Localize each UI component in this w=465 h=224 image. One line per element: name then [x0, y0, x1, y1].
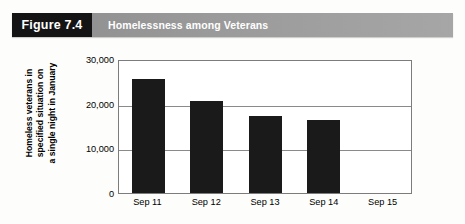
y-tick-label: 0 [52, 189, 114, 199]
x-tick-label: Sep 13 [236, 197, 295, 215]
figure-number-label: Figure 7.4 [12, 13, 92, 37]
x-tick-label: Sep 14 [294, 197, 353, 215]
bar-sep-13[interactable] [249, 116, 282, 193]
figure-header: Figure 7.4 Homelessness among Veterans [12, 13, 453, 37]
x-tick-label: Sep 11 [118, 197, 177, 215]
x-axis-tick-labels: Sep 11 Sep 12 Sep 13 Sep 14 Sep 15 [118, 197, 412, 215]
bar-slot [294, 61, 352, 193]
bar-sep-12[interactable] [190, 101, 223, 193]
bar-slot [353, 61, 411, 193]
bar-sep-14[interactable] [307, 120, 340, 193]
y-axis-title-line-2: specified situation on [35, 69, 46, 157]
y-axis-tick-labels: 30,000 20,000 10,000 0 [50, 60, 114, 194]
x-tick-label: Sep 12 [177, 197, 236, 215]
y-tick-label: 20,000 [52, 100, 114, 110]
y-axis-title-line-1: Homeless veterans in [24, 69, 35, 157]
bar-sep-11[interactable] [132, 79, 165, 193]
bar-slot [236, 61, 294, 193]
plot-frame [118, 60, 412, 194]
bar-slot [119, 61, 177, 193]
bars-layer [119, 61, 411, 193]
y-tick-label: 10,000 [52, 144, 114, 154]
y-tick-label: 30,000 [52, 55, 114, 65]
bar-slot [177, 61, 235, 193]
figure-title: Homelessness among Veterans [92, 13, 453, 37]
x-tick-label: Sep 15 [353, 197, 412, 215]
chart-plot-region: Homeless veterans in specified situation… [0, 44, 465, 224]
figure-container: Figure 7.4 Homelessness among Veterans H… [0, 0, 465, 224]
